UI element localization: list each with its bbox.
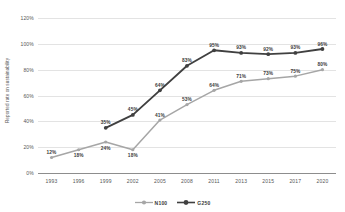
legend-marker-n100-icon — [135, 199, 153, 206]
data-point-n100 — [321, 68, 324, 71]
data-point-g250 — [185, 64, 189, 68]
data-point-n100 — [158, 118, 161, 121]
x-axis-tick-label: 1993 — [46, 178, 58, 184]
data-label-n100: 18% — [128, 153, 138, 158]
data-label-n100: 24% — [101, 146, 111, 151]
series-line-g250 — [106, 49, 323, 128]
y-axis-tick-label: 120% — [20, 15, 34, 21]
y-axis-tick-label: 0% — [26, 170, 34, 176]
data-label-n100: 71% — [236, 74, 246, 79]
y-axis-tick-label: 20% — [23, 144, 34, 150]
x-axis-tick-label: 1996 — [73, 178, 85, 184]
data-label-n100: 18% — [74, 153, 84, 158]
data-point-n100 — [240, 80, 243, 83]
sustainability-reporting-line-chart: Reported rate on sustainability 0%20%40%… — [0, 0, 345, 212]
data-point-g250 — [239, 51, 243, 55]
y-axis-tick-label: 40% — [23, 118, 34, 124]
data-point-g250 — [321, 47, 325, 51]
chart-legend: N100 G250 — [0, 199, 345, 206]
x-axis-tick-label: 2005 — [154, 178, 166, 184]
y-axis-tick-label: 100% — [20, 41, 34, 47]
y-axis-tick-label: 80% — [23, 67, 34, 73]
x-axis-line — [38, 173, 336, 174]
data-point-g250 — [212, 48, 216, 52]
x-axis-tick-label: 2008 — [181, 178, 193, 184]
legend-item-n100[interactable]: N100 — [135, 199, 168, 206]
data-point-g250 — [266, 52, 270, 56]
data-label-g250: 35% — [101, 120, 111, 125]
data-label-g250: 96% — [318, 42, 328, 47]
data-label-n100: 12% — [47, 150, 57, 155]
data-point-n100 — [185, 103, 188, 106]
legend-marker-g250-icon — [177, 199, 195, 206]
legend-label-n100: N100 — [155, 200, 168, 206]
data-point-n100 — [104, 140, 107, 143]
data-point-n100 — [77, 148, 80, 151]
data-label-g250: 93% — [290, 45, 300, 50]
x-axis-tick-label: 2011 — [208, 178, 220, 184]
data-label-g250: 45% — [128, 107, 138, 112]
data-label-g250: 64% — [155, 83, 165, 88]
data-point-n100 — [131, 148, 134, 151]
data-label-g250: 92% — [263, 47, 273, 52]
x-axis-tick-label: 2002 — [127, 178, 139, 184]
data-label-n100: 75% — [290, 69, 300, 74]
legend-item-g250[interactable]: G250 — [177, 199, 210, 206]
series-line-n100 — [52, 70, 323, 158]
data-point-g250 — [131, 113, 135, 117]
data-point-n100 — [212, 89, 215, 92]
data-label-n100: 73% — [263, 71, 273, 76]
data-point-g250 — [104, 126, 108, 130]
data-point-n100 — [267, 77, 270, 80]
x-axis-tick-label: 2013 — [235, 178, 247, 184]
data-point-g250 — [293, 51, 297, 55]
legend-label-g250: G250 — [197, 200, 210, 206]
data-label-n100: 64% — [209, 83, 219, 88]
y-axis-title: Reported rate on sustainability — [2, 0, 14, 180]
data-label-n100: 41% — [155, 113, 165, 118]
data-point-n100 — [294, 75, 297, 78]
data-point-n100 — [50, 156, 53, 159]
plot-area: 0%20%40%60%80%100%120% 19931996199920022… — [38, 18, 336, 173]
y-axis-title-label: Reported rate on sustainability — [6, 57, 11, 122]
series-lines — [38, 18, 336, 173]
x-axis-tick-label: 2015 — [262, 178, 274, 184]
data-label-g250: 95% — [209, 43, 219, 48]
data-label-n100: 53% — [182, 97, 192, 102]
data-point-g250 — [158, 88, 162, 92]
y-axis-tick-label: 60% — [23, 93, 34, 99]
x-axis-tick-label: 2020 — [316, 178, 328, 184]
data-label-g250: 83% — [182, 58, 192, 63]
x-axis-tick-label: 2017 — [289, 178, 301, 184]
data-label-g250: 93% — [236, 45, 246, 50]
data-label-n100: 80% — [318, 62, 328, 67]
x-axis-tick-label: 1999 — [100, 178, 112, 184]
